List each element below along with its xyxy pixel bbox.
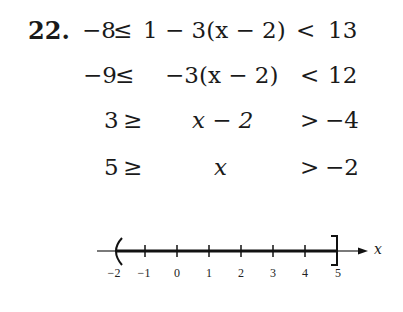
- axis-label: x: [374, 242, 382, 256]
- tick-label: 0: [174, 266, 180, 281]
- number-line: [0, 0, 403, 312]
- tick-label: 2: [238, 266, 244, 281]
- tick-label: 4: [302, 266, 308, 281]
- tick-label: 5: [335, 266, 341, 281]
- tick-label: −2: [108, 266, 121, 281]
- arrow-icon: [358, 248, 368, 255]
- tick-label: −1: [138, 266, 151, 281]
- tick-label: 3: [270, 266, 276, 281]
- tick-label: 1: [206, 266, 212, 281]
